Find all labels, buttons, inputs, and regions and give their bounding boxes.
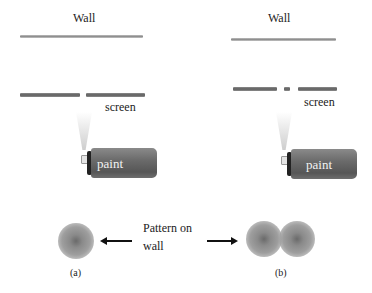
screen-label-a: screen	[105, 101, 136, 113]
wall-a	[20, 35, 143, 38]
pattern-label-line2: wall	[143, 240, 164, 252]
pattern-label-line1: Pattern on	[143, 222, 192, 234]
pattern-spot-b2	[279, 221, 315, 257]
pattern-spot-b1	[246, 221, 282, 257]
arrow-right-line	[207, 240, 232, 242]
screen-right-segment-a	[86, 93, 145, 97]
screen-right-segment-b	[298, 87, 337, 91]
caption-a: (a)	[70, 268, 81, 278]
screen-label-b: screen	[304, 96, 335, 108]
caption-b: (b)	[275, 268, 287, 278]
wall-label-a: Wall	[73, 12, 95, 24]
paint-label-a: paint	[97, 156, 123, 172]
screen-left-segment-a	[20, 93, 80, 97]
wall-b	[231, 38, 336, 41]
screen-left-segment-b	[233, 87, 277, 91]
arrow-right-head-icon	[231, 237, 238, 245]
pattern-spot-a	[58, 223, 94, 259]
paint-can-b: paint	[291, 149, 357, 179]
spray-mist-a	[76, 112, 92, 150]
screen-middle-segment-b	[284, 87, 290, 91]
paint-can-a: paint	[91, 148, 157, 178]
wall-label-b: Wall	[268, 12, 290, 24]
arrow-left-line	[106, 240, 132, 242]
spray-mist-b	[276, 112, 292, 150]
paint-label-b: paint	[306, 157, 332, 173]
